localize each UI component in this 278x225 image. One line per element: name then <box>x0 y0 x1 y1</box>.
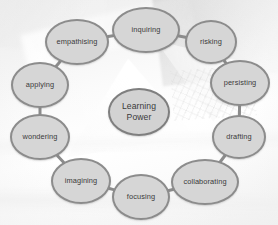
cycle-node-label: imagining <box>65 177 98 185</box>
cycle-node-applying[interactable]: applying <box>11 62 69 108</box>
cycle-node-wondering[interactable]: wondering <box>10 114 70 160</box>
center-node-learning-power[interactable]: Learning Power <box>108 88 170 136</box>
cycle-node-label: empathising <box>57 38 98 46</box>
cycle-node-label: applying <box>26 81 54 89</box>
cycle-node-drafting[interactable]: drafting <box>212 115 266 159</box>
cycle-node-label: risking <box>200 38 222 46</box>
connector-drafting-to-collaborating <box>220 156 224 162</box>
cycle-node-focusing[interactable]: focusing <box>112 174 170 220</box>
cycle-node-label: inquiring <box>132 26 161 34</box>
center-node-label-line2: Power <box>127 112 152 122</box>
cycle-node-label: drafting <box>226 133 251 141</box>
learning-power-diagram: inquiringriskingpersistingdraftingcollab… <box>0 0 278 225</box>
cycle-node-inquiring[interactable]: inquiring <box>112 7 180 53</box>
cycle-node-label: collaborating <box>183 178 226 186</box>
center-node-label: Learning Power <box>122 101 156 122</box>
cycle-node-imagining[interactable]: imagining <box>51 158 111 204</box>
cycle-node-label: focusing <box>127 193 155 201</box>
cycle-node-label: wondering <box>22 133 57 141</box>
cycle-node-persisting[interactable]: persisting <box>210 60 270 106</box>
cycle-node-empathising[interactable]: empathising <box>45 19 109 65</box>
cycle-node-label: persisting <box>224 79 257 87</box>
cycle-node-risking[interactable]: risking <box>185 20 237 64</box>
cycle-node-collaborating[interactable]: collaborating <box>171 159 239 205</box>
center-node-label-line1: Learning <box>122 101 156 111</box>
